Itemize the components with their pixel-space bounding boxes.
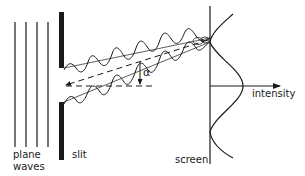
dashed-direction-line [66, 40, 208, 85]
plane-waves [15, 22, 48, 147]
angle-alpha-label: α [143, 66, 150, 79]
slit-bottom-segment [59, 102, 64, 160]
ray-guides [64, 38, 210, 102]
screen-label: screen [175, 154, 208, 165]
plane-waves-label-line1: plane [13, 149, 41, 160]
slit-top-segment [59, 12, 64, 68]
slit-label: slit [72, 149, 87, 160]
plane-waves-label-line2: waves [13, 161, 45, 172]
slit-barrier [59, 12, 64, 160]
intensity-label: intensity [252, 88, 295, 99]
diffraction-diagram: α plane waves slit screen intensity [0, 0, 305, 176]
wave-ray-top [64, 29, 210, 72]
